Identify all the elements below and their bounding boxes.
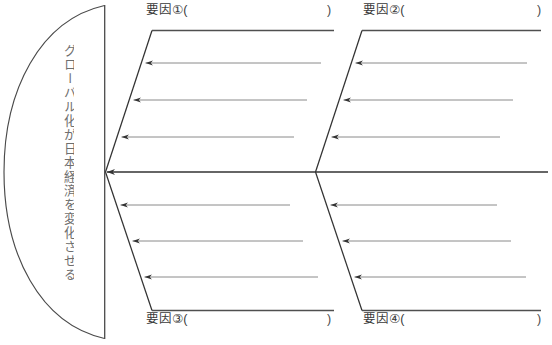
cause-bone-2: [316, 31, 542, 173]
cause-close-paren-3: ): [327, 313, 331, 326]
effect-statement-text: グローバル化が日本経済を変化させる: [52, 44, 74, 302]
cause-4-sub-arrows: [331, 205, 527, 277]
cause-bone-1: [106, 31, 335, 173]
cause-close-paren-2: ): [537, 4, 541, 17]
cause-close-paren-1: ): [327, 4, 331, 17]
diagram-drawing: [0, 0, 552, 345]
cause-label-3[interactable]: 要因③(: [146, 313, 187, 326]
cause-1-sub-arrows: [122, 63, 322, 137]
fishbone-diagram-canvas: グローバル化が日本経済を変化させる 要因①( ) 要因②( ) 要因③( ) 要…: [0, 0, 552, 345]
cause-2-sub-arrows: [332, 63, 528, 137]
cause-label-4[interactable]: 要因④(: [363, 313, 404, 326]
cause-3-sub-arrows: [121, 205, 319, 277]
cause-close-paren-4: ): [537, 313, 541, 326]
cause-label-2[interactable]: 要因②(: [363, 4, 404, 17]
cause-label-1[interactable]: 要因①(: [146, 4, 187, 17]
